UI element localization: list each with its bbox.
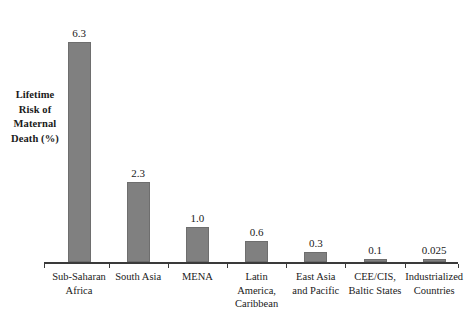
category-label-line: Caribbean bbox=[214, 297, 300, 311]
bar-value-label: 2.3 bbox=[103, 167, 173, 179]
axis-tick bbox=[345, 264, 346, 268]
axis-tick bbox=[458, 264, 459, 268]
bar-value-label: 0.025 bbox=[399, 244, 469, 256]
axis-tick bbox=[168, 264, 169, 268]
bar-value-label: 6.3 bbox=[44, 27, 114, 39]
category-label-line: Industrialized bbox=[391, 270, 475, 284]
axis-tick bbox=[227, 264, 228, 268]
bar bbox=[245, 241, 268, 262]
bar bbox=[68, 42, 91, 262]
bar bbox=[127, 182, 150, 262]
bar bbox=[186, 227, 209, 262]
bar bbox=[304, 252, 327, 262]
category-label-line: Africa bbox=[36, 284, 122, 298]
bar-value-label: 1.0 bbox=[162, 212, 232, 224]
axis-tick bbox=[405, 264, 406, 268]
category-label: IndustrializedCountries bbox=[391, 270, 475, 297]
axis-tick bbox=[44, 264, 45, 268]
axis-tick bbox=[286, 264, 287, 268]
plot-area: 6.3Sub-SaharanAfrica2.3South Asia1.0MENA… bbox=[0, 0, 475, 324]
axis-tick bbox=[109, 264, 110, 268]
x-axis-line bbox=[44, 262, 458, 264]
bar-chart: Lifetime Risk of Maternal Death (%) 6.3S… bbox=[0, 0, 475, 324]
category-label-line: Countries bbox=[391, 284, 475, 298]
